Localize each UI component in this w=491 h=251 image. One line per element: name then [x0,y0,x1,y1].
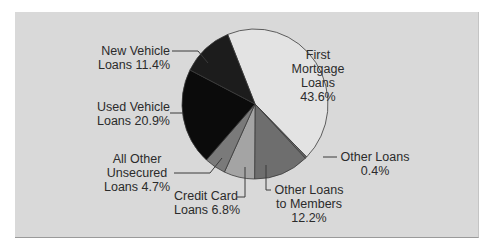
label-line: Other Loans [338,150,412,164]
label-line: 0.4% [338,164,412,178]
label-line: First [283,48,353,62]
label-line: Mortgage [283,62,353,76]
label-line: Loans [283,76,353,90]
label-line: Unsecured [100,166,174,180]
label-all-other-unsecured: All Other Unsecured Loans 4.7% [100,152,174,194]
pie-chart [0,0,491,251]
label-line: Used Vehicle [78,100,170,114]
label-used-vehicle: Used Vehicle Loans 20.9% [78,100,170,128]
label-line: Loans 4.7% [100,180,174,194]
label-line: Credit Card [174,189,244,203]
label-first-mortgage: First Mortgage Loans 43.6% [283,48,353,104]
label-line: Loans 20.9% [78,114,170,128]
label-line: Loans 11.4% [80,58,170,72]
label-line: to Members [270,197,348,211]
label-line: 12.2% [270,211,348,225]
label-line: All Other [100,152,174,166]
label-line: Other Loans [270,183,348,197]
label-other-loans: Other Loans 0.4% [338,150,412,178]
label-line: Loans 6.8% [174,203,244,217]
label-line: 43.6% [283,90,353,104]
label-credit-card: Credit Card Loans 6.8% [174,189,244,217]
label-new-vehicle: New Vehicle Loans 11.4% [80,44,170,72]
label-other-loans-members: Other Loans to Members 12.2% [270,183,348,225]
label-line: New Vehicle [80,44,170,58]
